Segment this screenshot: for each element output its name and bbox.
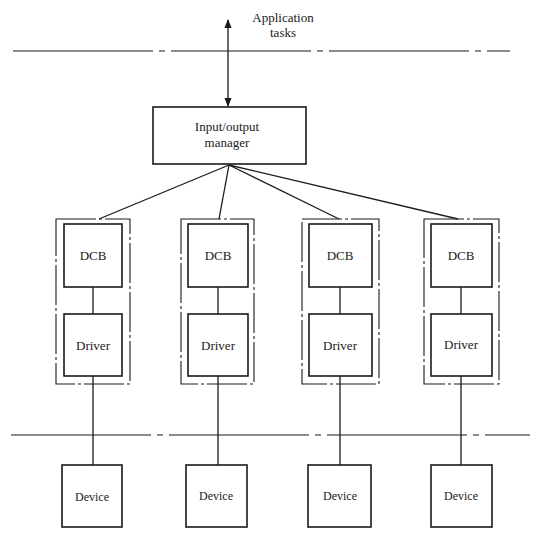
- driver-label: Driver: [323, 338, 358, 353]
- device-label: Device: [323, 489, 357, 503]
- dcb-label: DCB: [205, 248, 232, 263]
- device-label: Device: [199, 489, 233, 503]
- dcb-label: DCB: [448, 248, 475, 263]
- io-architecture-diagram: Application tasks Input/output manager D…: [0, 0, 535, 539]
- device-column-2: DCB Driver Device: [181, 219, 254, 527]
- io-manager-line2: manager: [205, 135, 250, 150]
- driver-label: Driver: [444, 337, 479, 352]
- driver-label: Driver: [201, 338, 236, 353]
- application-tasks-line2: tasks: [270, 25, 296, 40]
- device-label: Device: [75, 490, 109, 504]
- application-tasks-line1: Application: [252, 10, 314, 25]
- driver-label: Driver: [76, 338, 111, 353]
- device-column-1: DCB Driver Device: [56, 219, 130, 527]
- device-label: Device: [444, 489, 478, 503]
- io-manager-box: Input/output manager: [153, 107, 306, 164]
- device-column-3: DCB Driver Device: [302, 219, 379, 527]
- io-manager-line1: Input/output: [195, 119, 260, 134]
- dcb-label: DCB: [327, 248, 354, 263]
- dcb-label: DCB: [80, 248, 107, 263]
- device-column-4: DCB Driver Device: [424, 219, 499, 527]
- manager-connectors: [99, 165, 458, 219]
- application-tasks-label: Application tasks: [252, 10, 314, 40]
